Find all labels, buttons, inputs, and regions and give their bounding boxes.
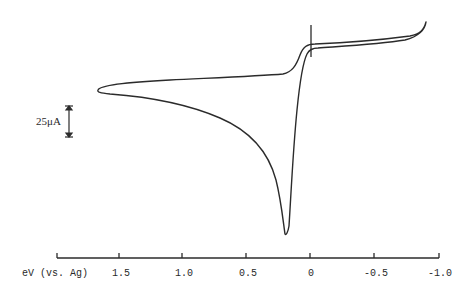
voltammogram-chart <box>0 0 469 293</box>
x-tick-label: -0.5 <box>364 268 388 279</box>
voltammogram-curve <box>98 22 426 235</box>
x-tick-label: -1.0 <box>428 268 452 279</box>
x-axis-title: eV (vs. Ag) <box>22 268 88 279</box>
scale-bar <box>65 106 73 137</box>
x-tick-label: 1.5 <box>112 268 130 279</box>
x-tick-label: 1.0 <box>175 268 193 279</box>
x-tick-label: 0.5 <box>239 268 257 279</box>
scale-bar-label: 25μA <box>36 115 61 127</box>
x-axis <box>57 253 439 258</box>
x-tick-label: 0 <box>308 268 314 279</box>
